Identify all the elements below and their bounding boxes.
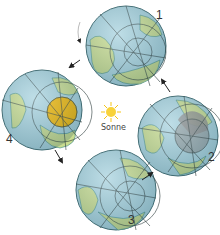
arrow-4-to-3 xyxy=(55,150,62,162)
earth-orbit-diagram xyxy=(0,0,220,235)
sun-label: Sonne xyxy=(101,123,126,132)
globe-2-label: 2 xyxy=(208,150,215,164)
sun-icon xyxy=(101,102,121,122)
arrow-2-to-1 xyxy=(162,80,170,92)
globe-1-label: 1 xyxy=(156,8,163,22)
rotation-arrow xyxy=(78,22,80,42)
globe-4-label: 4 xyxy=(6,132,13,146)
arrow-1-to-4 xyxy=(70,60,80,67)
globe-2 xyxy=(138,96,220,176)
globe-3-label: 3 xyxy=(128,213,135,227)
globe-4 xyxy=(2,70,92,150)
globe-1 xyxy=(86,6,166,86)
